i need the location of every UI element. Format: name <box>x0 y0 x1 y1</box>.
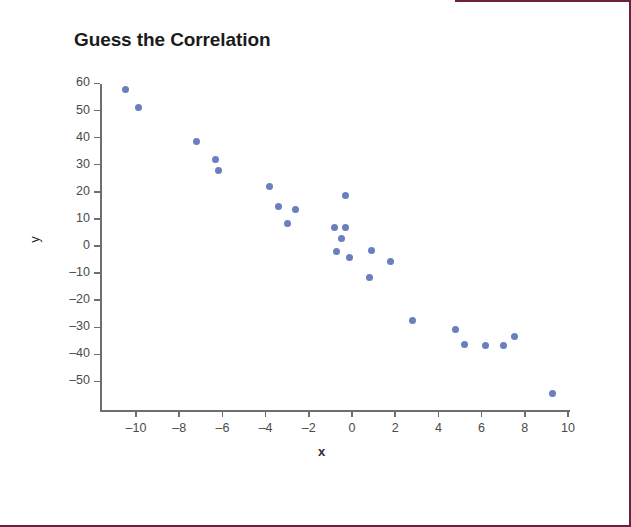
y-tick <box>94 83 100 85</box>
y-tick <box>94 327 100 329</box>
data-point <box>461 341 468 348</box>
data-point <box>366 274 373 281</box>
x-tick <box>351 411 353 417</box>
x-tick <box>222 411 224 417</box>
y-tick <box>94 218 100 220</box>
data-point <box>346 254 353 261</box>
y-tick-label: –20 <box>56 292 90 306</box>
y-tick <box>94 164 100 166</box>
data-point <box>338 235 345 242</box>
data-point <box>292 206 299 213</box>
y-tick <box>94 245 100 247</box>
data-point <box>266 183 273 190</box>
data-point <box>409 317 416 324</box>
data-point <box>193 138 200 145</box>
y-tick <box>94 272 100 274</box>
x-tick <box>438 411 440 417</box>
data-point <box>215 167 222 174</box>
data-point <box>511 333 518 340</box>
x-tick <box>265 411 267 417</box>
x-tick <box>394 411 396 417</box>
x-tick-label: –8 <box>162 421 196 435</box>
x-tick-label: 4 <box>421 421 455 435</box>
y-tick <box>94 137 100 139</box>
data-point <box>331 224 338 231</box>
data-point <box>387 258 394 265</box>
y-tick <box>94 299 100 301</box>
data-point <box>212 156 219 163</box>
y-tick <box>94 110 100 112</box>
data-point <box>333 248 340 255</box>
x-tick-label: –6 <box>205 421 239 435</box>
y-tick-label: 40 <box>56 130 90 144</box>
data-point <box>135 104 142 111</box>
x-tick-label: 2 <box>378 421 412 435</box>
y-axis-line <box>100 84 102 411</box>
y-tick-label: 20 <box>56 184 90 198</box>
data-point <box>122 86 129 93</box>
controls-bar: Guess the correlation: Reveal answer <box>0 466 631 500</box>
x-tick <box>567 411 569 417</box>
x-tick-label: –10 <box>119 421 153 435</box>
x-tick <box>481 411 483 417</box>
data-point <box>275 203 282 210</box>
data-point <box>368 247 375 254</box>
y-tick-label: –40 <box>56 346 90 360</box>
x-tick <box>178 411 180 417</box>
y-tick-label: 30 <box>56 157 90 171</box>
x-tick <box>135 411 137 417</box>
app-frame: Guess the Correlation y x 6050403020100–… <box>0 0 631 527</box>
scatter-plot: y x 6050403020100–10–20–30–40–50 –10–8–6… <box>0 0 631 470</box>
x-tick-label: –2 <box>292 421 326 435</box>
x-tick-label: 0 <box>335 421 369 435</box>
data-point <box>452 326 459 333</box>
x-tick <box>308 411 310 417</box>
y-tick-label: 10 <box>56 211 90 225</box>
data-point <box>482 342 489 349</box>
x-axis-label: x <box>318 444 325 459</box>
data-point <box>549 390 556 397</box>
x-tick-label: –4 <box>249 421 283 435</box>
x-tick <box>524 411 526 417</box>
data-point <box>342 224 349 231</box>
y-tick-label: 60 <box>56 75 90 89</box>
y-axis-label: y <box>27 236 42 243</box>
y-tick-label: –30 <box>56 319 90 333</box>
x-tick-label: 8 <box>508 421 542 435</box>
data-point <box>342 192 349 199</box>
y-tick <box>94 354 100 356</box>
x-tick-label: 10 <box>551 421 585 435</box>
x-axis-line <box>100 410 570 412</box>
data-point <box>284 220 291 227</box>
y-tick-label: 0 <box>56 238 90 252</box>
y-tick <box>94 191 100 193</box>
y-tick-label: –50 <box>56 373 90 387</box>
x-tick-label: 6 <box>465 421 499 435</box>
data-point <box>500 342 507 349</box>
y-tick-label: 50 <box>56 103 90 117</box>
y-tick-label: –10 <box>56 265 90 279</box>
y-tick <box>94 381 100 383</box>
